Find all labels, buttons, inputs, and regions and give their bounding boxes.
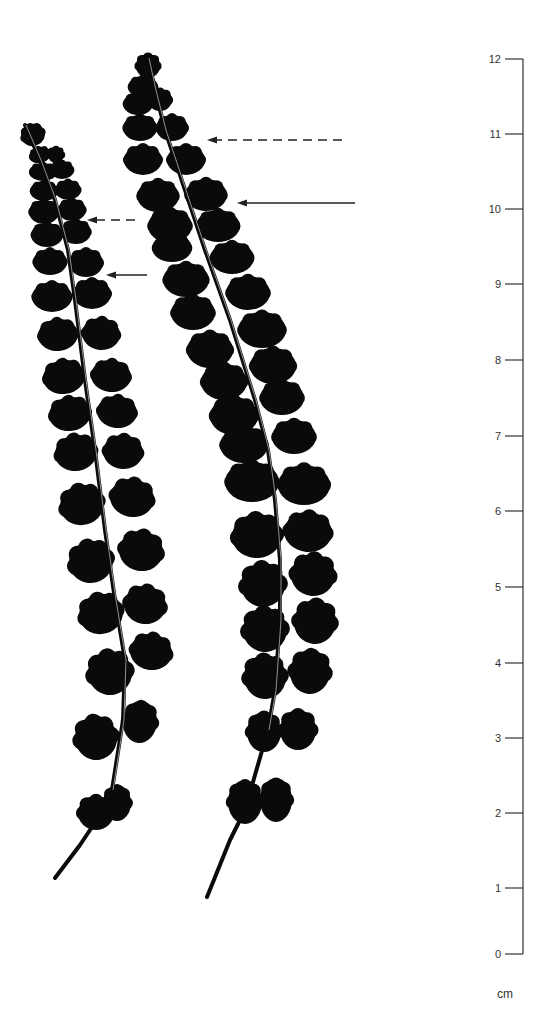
scale-tick-label: 1 bbox=[495, 882, 501, 894]
scale-tick-label: 11 bbox=[490, 128, 501, 140]
scale-tick-label: 4 bbox=[495, 657, 501, 669]
scale-unit-label: cm bbox=[497, 987, 513, 1001]
scale-tick-label: 8 bbox=[495, 354, 501, 366]
pinna bbox=[225, 274, 271, 310]
pinna bbox=[259, 379, 305, 415]
scale-tick-label: 0 bbox=[495, 948, 501, 960]
scale-tick-label: 2 bbox=[495, 807, 501, 819]
scale-tick-label: 9 bbox=[495, 278, 501, 290]
scale-tick-label: 10 bbox=[489, 203, 501, 215]
scale-tick-label: 12 bbox=[489, 53, 501, 65]
scale-tick-label: 6 bbox=[495, 505, 501, 517]
scale-tick-label: 7 bbox=[495, 430, 501, 442]
fern-specimen-figure: 1211109876543210 cm bbox=[0, 0, 559, 1032]
scale-tick-label: 3 bbox=[495, 732, 501, 744]
pinna bbox=[271, 418, 317, 454]
pinna bbox=[170, 294, 216, 330]
scale-tick-label: 5 bbox=[495, 581, 501, 593]
